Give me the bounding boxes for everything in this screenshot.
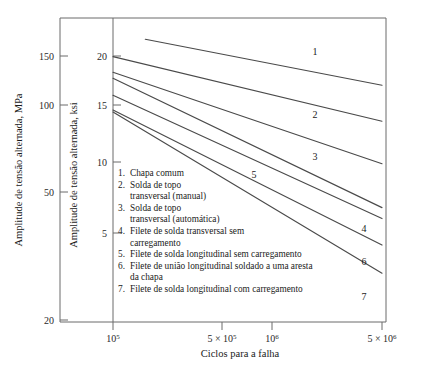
legend-item: carregamento: [118, 238, 353, 250]
legend-item: 1.Chapa comum: [118, 168, 353, 180]
curve-number-7: 7: [362, 291, 367, 302]
chart-figure: 150 100 50 20 Amplitude de tensão altern…: [0, 0, 423, 366]
legend-item-number: 2.: [118, 180, 130, 192]
x-tick-group: [113, 322, 382, 330]
legend-item-label: Filete de solda longitudinal sem carrega…: [130, 249, 353, 261]
x-ticklabel-5e5: 5 × 105: [207, 333, 237, 344]
mpa-ticklabel-20: 20: [44, 315, 54, 326]
legend-item: 7.Filete de solda longitudinal com carre…: [118, 284, 353, 296]
legend: 1.Chapa comum2.Solda de topotransversal …: [118, 168, 353, 296]
legend-item-label: Chapa comum: [130, 168, 353, 180]
legend-item-label: transversal (automática): [130, 214, 353, 226]
legend-item-label: carregamento: [130, 238, 353, 250]
sn-curve-1: [145, 39, 382, 85]
curve-number-4: 4: [362, 223, 367, 234]
y-left-axis-title: Amplitude de tensão alternada, MPa: [13, 93, 24, 246]
legend-item-label: Filete de união longitudinal soldado a u…: [130, 261, 353, 273]
legend-item-number: 4.: [118, 226, 130, 238]
mpa-ticklabel-150: 150: [39, 51, 54, 62]
legend-item-number: [118, 272, 130, 284]
legend-item-label: Filete de solda transversal sem: [130, 226, 353, 238]
legend-item: transversal (manual): [118, 191, 353, 203]
sn-curve-3: [113, 72, 382, 163]
legend-item-number: [118, 238, 130, 250]
legend-item-number: 6.: [118, 261, 130, 273]
ksi-ticklabel-15: 15: [97, 100, 107, 111]
curve-number-3: 3: [313, 151, 318, 162]
legend-item: 5.Filete de solda longitudinal sem carre…: [118, 249, 353, 261]
legend-item: 2.Solda de topo: [118, 180, 353, 192]
legend-item-number: 7.: [118, 284, 130, 296]
legend-item: da chapa: [118, 272, 353, 284]
x-ticklabel-5e6: 5 × 106: [367, 333, 397, 344]
legend-item-label: Solda de topo: [130, 203, 353, 215]
sn-curve-2: [113, 57, 382, 122]
mpa-ticklabel-50: 50: [44, 187, 54, 198]
y-right-axis-title: Amplitude de tensão alternada, ksi: [68, 102, 79, 248]
curve-number-2: 2: [313, 109, 318, 120]
x-ticklabel-1e5: 105: [106, 333, 120, 344]
ksi-tick-labels: 20 15 10 5: [97, 51, 107, 239]
legend-item: 4.Filete de solda transversal sem: [118, 226, 353, 238]
x-tick-labels: 105 5 × 105 106 5 × 106: [106, 333, 397, 344]
legend-item-label: da chapa: [130, 272, 353, 284]
legend-item-number: 5.: [118, 249, 130, 261]
legend-item-number: [118, 214, 130, 226]
mpa-tick-group: [60, 56, 68, 320]
ksi-ticklabel-10: 10: [97, 157, 107, 168]
curve-number-1: 1: [313, 46, 318, 57]
legend-item-label: Solda de topo: [130, 180, 353, 192]
legend-item-number: [118, 191, 130, 203]
mpa-tick-labels: 150 100 50 20: [39, 51, 54, 326]
x-ticklabel-1e6: 106: [265, 333, 279, 344]
legend-item-label: Filete de solda longitudinal com carrega…: [130, 284, 353, 296]
legend-list: 1.Chapa comum2.Solda de topotransversal …: [118, 168, 353, 296]
legend-item-number: 3.: [118, 203, 130, 215]
legend-item: transversal (automática): [118, 214, 353, 226]
ksi-ticklabel-5: 5: [102, 228, 107, 239]
legend-item: 6.Filete de união longitudinal soldado a…: [118, 261, 353, 273]
mpa-ticklabel-100: 100: [39, 100, 54, 111]
curve-number-6: 6: [362, 256, 367, 267]
legend-item-number: 1.: [118, 168, 130, 180]
x-axis-title: Ciclos para a falha: [201, 348, 280, 359]
legend-item: 3.Solda de topo: [118, 203, 353, 215]
ksi-ticklabel-20: 20: [97, 51, 107, 62]
legend-item-label: transversal (manual): [130, 191, 353, 203]
